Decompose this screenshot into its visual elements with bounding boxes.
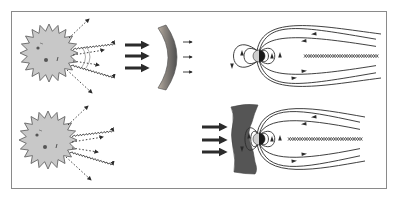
sunspot — [44, 58, 48, 62]
sun-body — [28, 32, 70, 74]
sun-body — [27, 119, 69, 161]
sunspot — [43, 145, 47, 149]
diagram-svg — [0, 0, 397, 200]
sunspot — [36, 46, 39, 49]
diagram-stage — [0, 0, 397, 200]
sunspot — [35, 133, 38, 136]
